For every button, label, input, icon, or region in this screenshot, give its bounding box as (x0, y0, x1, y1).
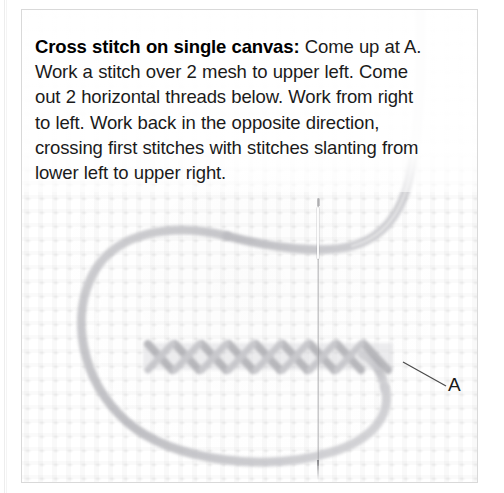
caption-lead-in: Cross stitch on single canvas: (35, 36, 299, 57)
figure-page: A Cross stitch on single canvas: Come up… (0, 0, 504, 493)
callout-label-a: A (448, 375, 461, 394)
page-gutter-line-outer (4, 0, 5, 493)
illustration-frame: A Cross stitch on single canvas: Come up… (21, 9, 478, 483)
page-gutter-line-inner (6, 0, 7, 493)
caption-body: Come up at A. Work a stitch over 2 mesh … (35, 36, 421, 183)
instruction-caption: Cross stitch on single canvas: Come up a… (35, 34, 431, 185)
